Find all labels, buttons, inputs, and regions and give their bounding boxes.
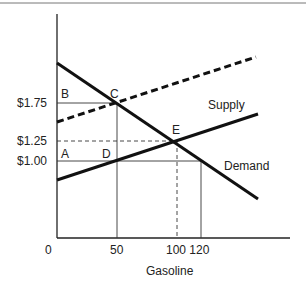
point-label-a: A: [61, 148, 69, 160]
y-tick-100: $1.00: [17, 155, 47, 167]
x-tick-100-120: 100 120: [166, 244, 209, 256]
x-tick-0: 0: [45, 244, 52, 256]
x-tick-50: 50: [110, 244, 123, 256]
point-label-b: B: [61, 88, 69, 100]
shifted-supply-curve: [57, 57, 256, 122]
point-label-c: C: [110, 88, 119, 100]
point-label-e: E: [172, 124, 180, 136]
demand-label: Demand: [224, 160, 269, 172]
y-tick-125: $1.25: [17, 135, 47, 147]
x-axis-title: Gasoline: [146, 265, 193, 277]
supply-label: Supply: [208, 99, 245, 111]
demand-curve: [57, 63, 258, 199]
y-tick-175: $1.75: [17, 97, 47, 109]
point-label-d: D: [102, 148, 111, 160]
